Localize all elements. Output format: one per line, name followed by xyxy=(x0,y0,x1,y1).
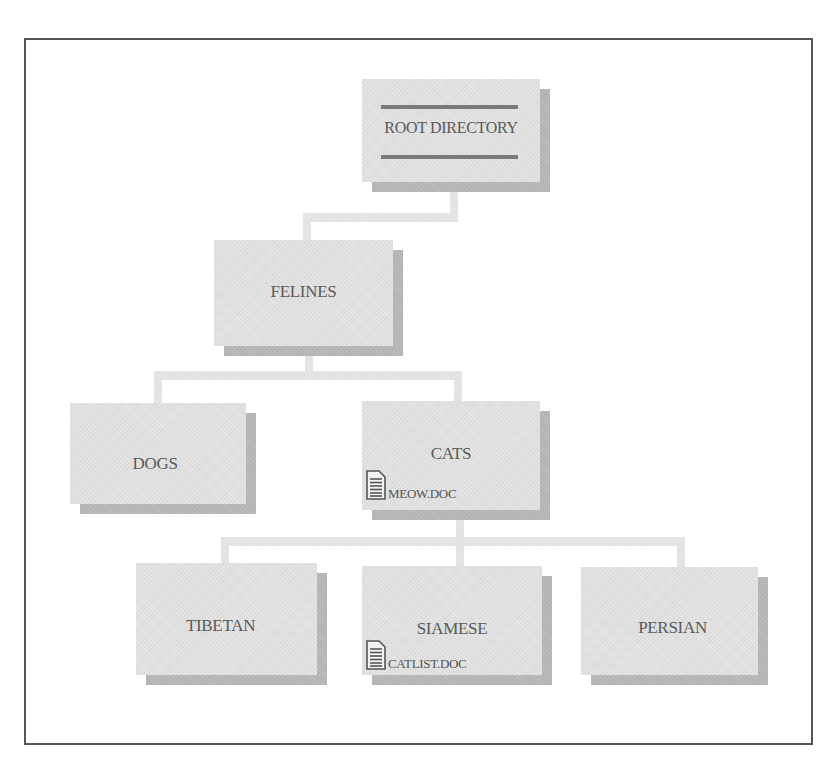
node-root-directory[interactable]: ROOT DIRECTORY xyxy=(362,79,540,182)
node-label: TIBETAN xyxy=(124,616,317,636)
root-bottom-stripe xyxy=(381,155,518,159)
node-label: CATS xyxy=(362,444,540,464)
connector-cats-up xyxy=(454,371,462,402)
connector-tibetan-up xyxy=(221,537,229,564)
node-label: ROOT DIRECTORY xyxy=(362,119,540,137)
node-label: DOGS xyxy=(64,454,246,474)
node-label: FELINES xyxy=(214,282,393,302)
node-tibetan[interactable]: TIBETAN xyxy=(136,563,317,675)
connector-persian-up xyxy=(677,537,685,568)
node-label: PERSIAN xyxy=(587,618,758,638)
document-icon xyxy=(366,470,386,500)
connector-level3-horizontal xyxy=(221,537,685,546)
file-name: CATLIST.DOC xyxy=(388,657,466,670)
node-label: SIAMESE xyxy=(362,619,542,639)
connector-felines-up xyxy=(303,213,311,241)
file-catlist-doc[interactable]: CATLIST.DOC xyxy=(366,640,466,670)
node-dogs[interactable]: DOGS xyxy=(70,403,246,504)
connector-dogs-up xyxy=(154,371,162,404)
connector-level2-horizontal xyxy=(154,371,462,380)
node-cats[interactable]: CATS MEOW.DOC xyxy=(362,401,540,510)
file-name: MEOW.DOC xyxy=(388,487,456,500)
file-meow-doc[interactable]: MEOW.DOC xyxy=(366,470,456,500)
node-persian[interactable]: PERSIAN xyxy=(581,567,758,675)
node-felines[interactable]: FELINES xyxy=(214,240,393,346)
root-top-stripe xyxy=(381,105,518,109)
node-siamese[interactable]: SIAMESE CATLIST.DOC xyxy=(362,566,542,675)
document-icon xyxy=(366,640,386,670)
connector-root-horizontal xyxy=(303,213,458,222)
